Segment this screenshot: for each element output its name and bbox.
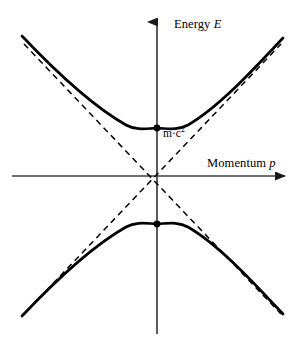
rest-energy-mass-symbol: m <box>163 127 172 139</box>
relativistic-energy-momentum-figure: Energy E Momentum p m·c2 <box>0 0 303 346</box>
positive-rest-energy-vertex-dot <box>154 125 161 132</box>
momentum-axis-label-prefix: Momentum <box>207 156 269 170</box>
diagram-canvas <box>0 0 303 346</box>
momentum-axis-label: Momentum p <box>207 157 276 170</box>
energy-axis-label-prefix: Energy <box>174 17 214 31</box>
lower-hyperbola-branch <box>22 223 283 316</box>
rest-energy-exponent: 2 <box>181 125 185 134</box>
rest-energy-label: m·c2 <box>163 128 185 140</box>
energy-axis-label-variable: E <box>214 17 222 31</box>
energy-axis-label: Energy E <box>174 18 221 31</box>
momentum-axis-label-variable: p <box>269 156 275 170</box>
negative-rest-energy-vertex-dot <box>154 221 161 228</box>
